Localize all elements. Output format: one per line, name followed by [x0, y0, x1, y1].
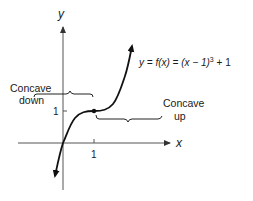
y-axis-label: y [57, 7, 65, 21]
y-tick-label-1: 1 [53, 106, 59, 117]
concave-up-label-line2: up [174, 110, 186, 122]
x-axis-label: x [175, 136, 183, 150]
concave-up-brace [96, 115, 162, 122]
concave-down-label-line2: down [19, 94, 44, 106]
function-graph: y x 1 1 y = f(x) = (x − 1)3 + 1 Concave … [0, 0, 253, 201]
equation-label: y = f(x) = (x − 1)3 + 1 [138, 56, 231, 68]
inflection-point [92, 109, 96, 113]
concave-up-label-line1: Concave [163, 97, 205, 109]
x-tick-label-1: 1 [91, 149, 97, 160]
concave-down-label-line1: Concave [10, 82, 52, 94]
function-curve-upper [94, 46, 132, 111]
